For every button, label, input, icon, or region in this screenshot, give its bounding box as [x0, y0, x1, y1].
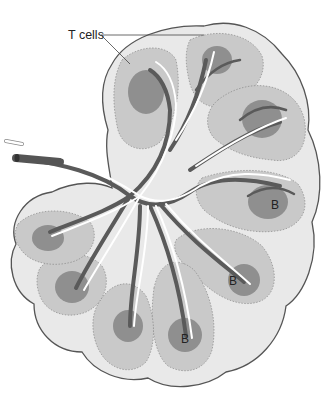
afferent-vessel-tube [16, 158, 60, 162]
b-cell-label-3: B [181, 332, 189, 346]
b-cell-label-2: B [229, 274, 237, 288]
lymph-node-diagram: T cells B B B [0, 0, 326, 396]
t-cells-label: T cells [68, 28, 104, 42]
b-cell-label-1: B [271, 198, 279, 212]
vessel-opening [15, 154, 20, 162]
